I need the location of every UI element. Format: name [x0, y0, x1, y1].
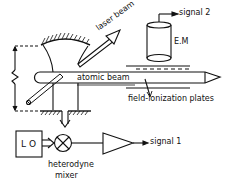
- label-atomic-beam: atomic beam: [77, 74, 130, 82]
- laser-beam: [78, 30, 120, 67]
- flat-mirror: [40, 111, 91, 127]
- label-heterodyne: heterodyne: [48, 161, 94, 169]
- curved-mirror: [41, 33, 90, 72]
- dimension-marker: [12, 46, 40, 111]
- label-signal-2: signal 2: [179, 9, 210, 17]
- diagram-canvas: laser beam atomic beam signal 2 E.M fiel…: [0, 0, 231, 188]
- label-em: E.M: [174, 38, 189, 46]
- label-signal-1: signal 1: [150, 138, 181, 146]
- label-lo: L O: [21, 140, 36, 149]
- heterodyne-mixer: [55, 135, 72, 152]
- label-mixer: mixer: [55, 172, 78, 180]
- label-field-ionization-plates: field-ionization plates: [128, 95, 214, 103]
- amplifier: [103, 133, 133, 154]
- field-ionization-plates: [126, 66, 190, 97]
- diagonal-beam: [27, 74, 64, 105]
